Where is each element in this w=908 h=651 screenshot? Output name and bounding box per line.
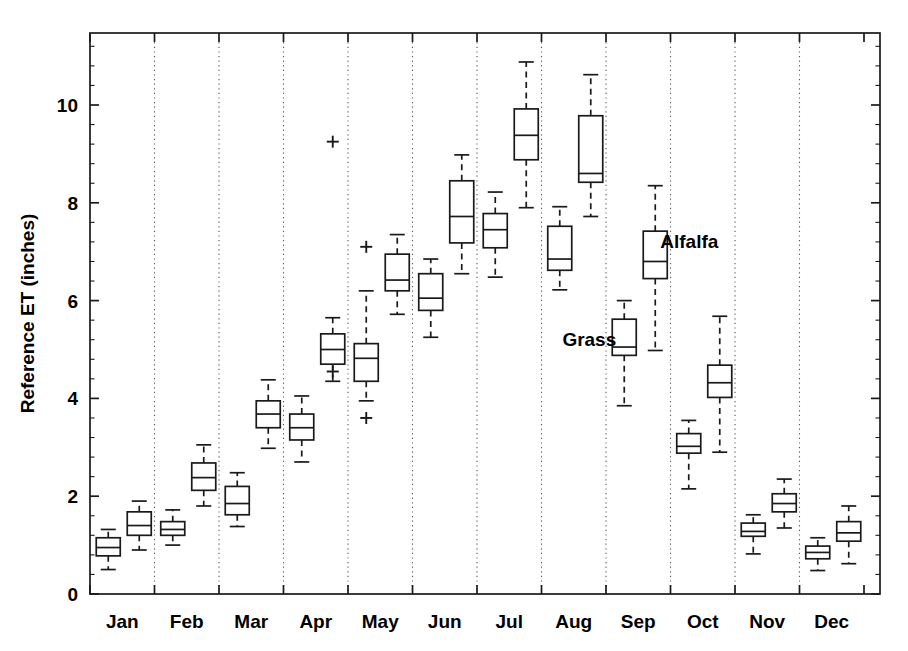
box-iqr (837, 522, 861, 542)
y-tick-label: 2 (67, 486, 78, 507)
x-tick-label-feb: Feb (170, 611, 204, 632)
box-iqr (483, 214, 507, 248)
boxplot-alfalfa-may (385, 235, 409, 315)
box-iqr (677, 434, 701, 454)
y-tick-label: 10 (57, 95, 78, 116)
boxplot-grass-apr (290, 396, 314, 462)
boxplot-grass-jul (483, 192, 507, 277)
series-label-alfalfa: Alfalfa (660, 231, 719, 252)
boxplot-alfalfa-feb (192, 445, 216, 506)
box-iqr (127, 512, 151, 535)
x-tick-label-oct: Oct (687, 611, 719, 632)
box-iqr (548, 226, 572, 270)
box-iqr (192, 463, 216, 490)
boxplot-grass-aug (548, 207, 572, 290)
box-plots (96, 62, 861, 571)
box-iqr (514, 109, 538, 160)
box-iqr (354, 344, 378, 382)
axis-labels: Reference ET (inches)AlfalfaGrass (17, 214, 719, 414)
box-iqr (225, 486, 249, 514)
box-iqr (708, 365, 732, 397)
box-iqr (385, 254, 409, 291)
box-iqr (419, 274, 443, 311)
x-tick-label-dec: Dec (814, 611, 849, 632)
chart-canvas: 0246810 JanFebMarAprMayJunJulAugSepOctNo… (0, 0, 908, 651)
boxplot-grass-oct (677, 420, 701, 488)
boxplot-alfalfa-mar (256, 380, 280, 448)
boxplot-alfalfa-dec (837, 506, 861, 564)
boxplot-grass-may (354, 241, 378, 424)
boxplot-grass-dec (806, 538, 830, 571)
boxplot-grass-feb (161, 510, 185, 545)
x-tick-label-jan: Jan (106, 611, 139, 632)
boxplot-figure: 0246810 JanFebMarAprMayJunJulAugSepOctNo… (0, 0, 908, 651)
x-tick-label-jun: Jun (428, 611, 462, 632)
boxplot-alfalfa-jun (450, 155, 474, 274)
y-tick-label: 8 (67, 193, 78, 214)
y-axis-title: Reference ET (inches) (17, 214, 38, 414)
plot-frame (90, 33, 880, 594)
x-tick-label-may: May (362, 611, 399, 632)
series-label-grass: Grass (562, 329, 616, 350)
boxplot-alfalfa-oct (708, 316, 732, 452)
box-iqr (741, 523, 765, 536)
y-tick-label: 0 (67, 584, 78, 605)
boxplot-grass-mar (225, 473, 249, 527)
boxplot-grass-sep (612, 301, 636, 406)
axes-frame (90, 33, 880, 594)
x-tick-label-mar: Mar (234, 611, 268, 632)
box-iqr (161, 522, 185, 536)
y-tick-label: 4 (67, 388, 78, 409)
boxplot-alfalfa-jul (514, 62, 538, 208)
boxplot-alfalfa-aug (579, 75, 603, 217)
boxplot-grass-jun (419, 259, 443, 337)
x-tick-label-aug: Aug (555, 611, 592, 632)
x-tick-label-apr: Apr (299, 611, 332, 632)
y-tick-label: 6 (67, 291, 78, 312)
x-tick-label-nov: Nov (749, 611, 785, 632)
boxplot-alfalfa-jan (127, 501, 151, 550)
boxplot-alfalfa-apr (321, 136, 345, 382)
boxplot-grass-nov (741, 515, 765, 554)
gridlines (155, 33, 800, 594)
boxplot-alfalfa-nov (772, 479, 796, 528)
boxplot-grass-jan (96, 529, 120, 569)
box-iqr (579, 116, 603, 183)
box-iqr (450, 181, 474, 243)
x-tick-label-sep: Sep (621, 611, 656, 632)
boxplot-alfalfa-sep (643, 186, 667, 351)
x-tick-label-jul: Jul (496, 611, 523, 632)
